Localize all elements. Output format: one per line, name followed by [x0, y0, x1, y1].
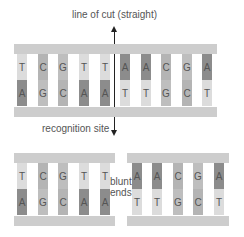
base-C: C — [173, 163, 183, 189]
base-A: A — [120, 54, 130, 80]
base-G: G — [58, 54, 68, 80]
base-A: A — [79, 189, 89, 215]
arrow-down-icon — [111, 130, 117, 136]
base-T: T — [202, 80, 212, 106]
right-top-backbone — [127, 153, 229, 163]
base-T: T — [79, 54, 89, 80]
base-C: C — [161, 54, 171, 80]
base-C: C — [58, 80, 68, 106]
base-A: A — [132, 163, 142, 189]
base-A: A — [17, 80, 27, 106]
top-backbone — [14, 44, 217, 54]
right-bottom-backbone — [127, 216, 229, 226]
base-A: A — [141, 54, 151, 80]
base-G: G — [182, 54, 192, 80]
base-A: A — [100, 80, 110, 106]
base-C: C — [58, 189, 68, 215]
base-A: A — [17, 189, 27, 215]
base-T: T — [214, 189, 224, 215]
base-G: G — [38, 189, 48, 215]
ends-label: ends — [110, 188, 132, 198]
base-C: C — [38, 163, 48, 189]
left-top-backbone — [14, 153, 115, 163]
left-bottom-backbone — [14, 216, 115, 226]
base-A: A — [152, 163, 162, 189]
bottom-backbone — [14, 107, 217, 117]
base-T: T — [152, 189, 162, 215]
base-T: T — [17, 54, 27, 80]
base-G: G — [193, 163, 203, 189]
base-G: G — [38, 80, 48, 106]
base-A: A — [100, 189, 110, 215]
base-A: A — [214, 163, 224, 189]
blunt-label: blunt — [110, 177, 132, 187]
recognition-site-label: recognition site — [42, 124, 109, 134]
base-C: C — [182, 80, 192, 106]
base-T: T — [17, 163, 27, 189]
base-T: T — [141, 80, 151, 106]
cut-line-label: line of cut (straight) — [72, 10, 157, 20]
base-C: C — [193, 189, 203, 215]
base-G: G — [173, 189, 183, 215]
base-T: T — [120, 80, 130, 106]
base-C: C — [38, 54, 48, 80]
base-T: T — [79, 163, 89, 189]
base-T: T — [100, 54, 110, 80]
base-T: T — [132, 189, 142, 215]
base-G: G — [161, 80, 171, 106]
base-T: T — [100, 163, 110, 189]
base-A: A — [202, 54, 212, 80]
base-G: G — [58, 163, 68, 189]
base-A: A — [79, 80, 89, 106]
